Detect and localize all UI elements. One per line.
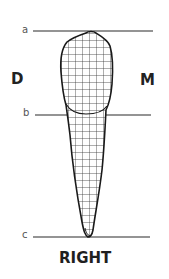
distal-label: D — [11, 72, 23, 87]
mesial-label: M — [140, 73, 155, 88]
line-label-b: b — [23, 108, 29, 118]
tooth-diagram: a b c D M RIGHT — [0, 0, 169, 279]
line-label-a: a — [22, 25, 28, 35]
line-label-c: c — [22, 230, 28, 240]
diagram-title: RIGHT — [59, 251, 111, 266]
